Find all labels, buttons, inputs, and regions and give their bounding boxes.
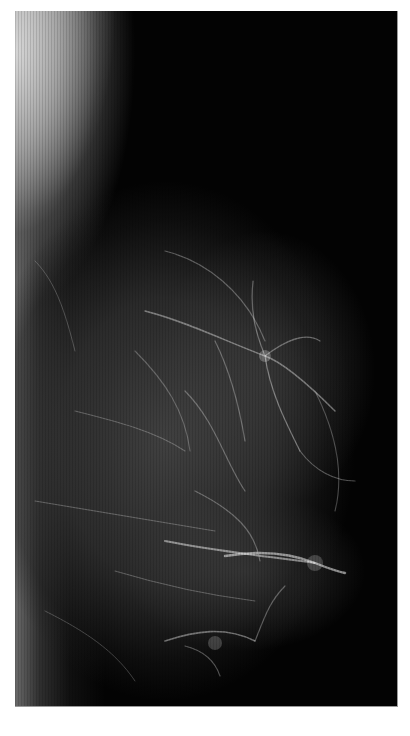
mammogram-image — [15, 11, 398, 707]
film-texture — [15, 11, 397, 706]
